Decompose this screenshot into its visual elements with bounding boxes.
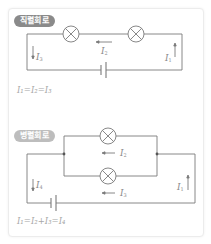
series-current-i2-label: I2	[101, 46, 108, 58]
battery-icon	[51, 195, 56, 211]
parallel-current-i2-label: I2	[120, 148, 127, 160]
parallel-formula: I₁=I₂+I₃=I₄	[17, 216, 65, 226]
current-arrow-icon	[102, 192, 115, 194]
circuit-diagrams	[0, 0, 211, 244]
current-arrow-icon	[32, 179, 34, 191]
lamp-icon	[63, 26, 79, 42]
current-arrow-icon	[187, 175, 189, 190]
lamp-icon	[128, 26, 144, 42]
parallel-current-i3-label: I3	[120, 188, 127, 200]
junction-dot	[156, 153, 159, 156]
parallel-current-i4-label: I4	[36, 180, 43, 192]
series-current-i1-label: I1	[165, 53, 172, 65]
lamp-icon	[100, 168, 116, 184]
parallel-circuit-badge: 병렬회로	[14, 130, 55, 142]
current-arrow-icon	[174, 43, 176, 57]
junction-dot	[63, 153, 66, 156]
current-arrow-icon	[96, 41, 112, 43]
lamp-icon	[100, 128, 116, 144]
parallel-current-i1-label: I1	[177, 182, 184, 194]
current-arrow-icon	[102, 152, 115, 154]
battery-icon	[101, 62, 106, 78]
series-current-i3-label: I3	[36, 52, 43, 64]
series-formula: I₁=I₂=I₃	[17, 85, 52, 95]
current-arrow-icon	[32, 46, 34, 59]
